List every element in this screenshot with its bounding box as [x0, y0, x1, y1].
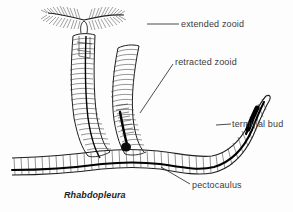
- figure-caption-genus: Rhabdopleura: [64, 190, 126, 200]
- pectocaulus-annulations: [14, 99, 266, 175]
- retracted-zooid-body: [116, 104, 134, 152]
- label-pectocaulus: pectocaulus: [192, 180, 242, 190]
- left-tube-collar: [77, 36, 92, 58]
- mid-tube-aperture: [118, 45, 139, 48]
- leader-pectocaulus: [161, 167, 190, 184]
- zooid-neck: [81, 21, 88, 33]
- label-retracted-zooid: retracted zooid: [175, 57, 237, 67]
- label-extended-zooid: extended zooid: [181, 19, 244, 29]
- left-tube-aperture: [73, 34, 95, 36]
- leader-retracted-zooid: [140, 64, 173, 113]
- pectocaulus-lower-edge: [12, 103, 268, 175]
- retracted-zooid-base: [121, 143, 131, 152]
- leader-terminal-bud: [216, 124, 231, 125]
- retracted-zooid-tube: [111, 45, 146, 155]
- left-tube-right-wall: [94, 35, 110, 152]
- mid-tube-right-wall: [132, 46, 144, 152]
- right-arm-tentacles: [89, 7, 126, 30]
- label-terminal-bud: terminal bud: [232, 119, 283, 129]
- leader-lines: [140, 24, 231, 184]
- pectocaulus-tip: [266, 95, 270, 103]
- extended-zooid-crown: [41, 6, 126, 33]
- mid-tube-annulations: [111, 49, 144, 147]
- zooid-stalk: [85, 36, 100, 158]
- rhabdopleura-diagram: extended zooid retracted zooid terminal …: [0, 0, 293, 212]
- extended-zooid-tube: [70, 34, 111, 158]
- diagram-canvas: [0, 0, 293, 212]
- mid-tube-base-junction: [125, 152, 146, 155]
- stolon: [12, 102, 264, 170]
- pectocaulus-tube: [12, 95, 270, 175]
